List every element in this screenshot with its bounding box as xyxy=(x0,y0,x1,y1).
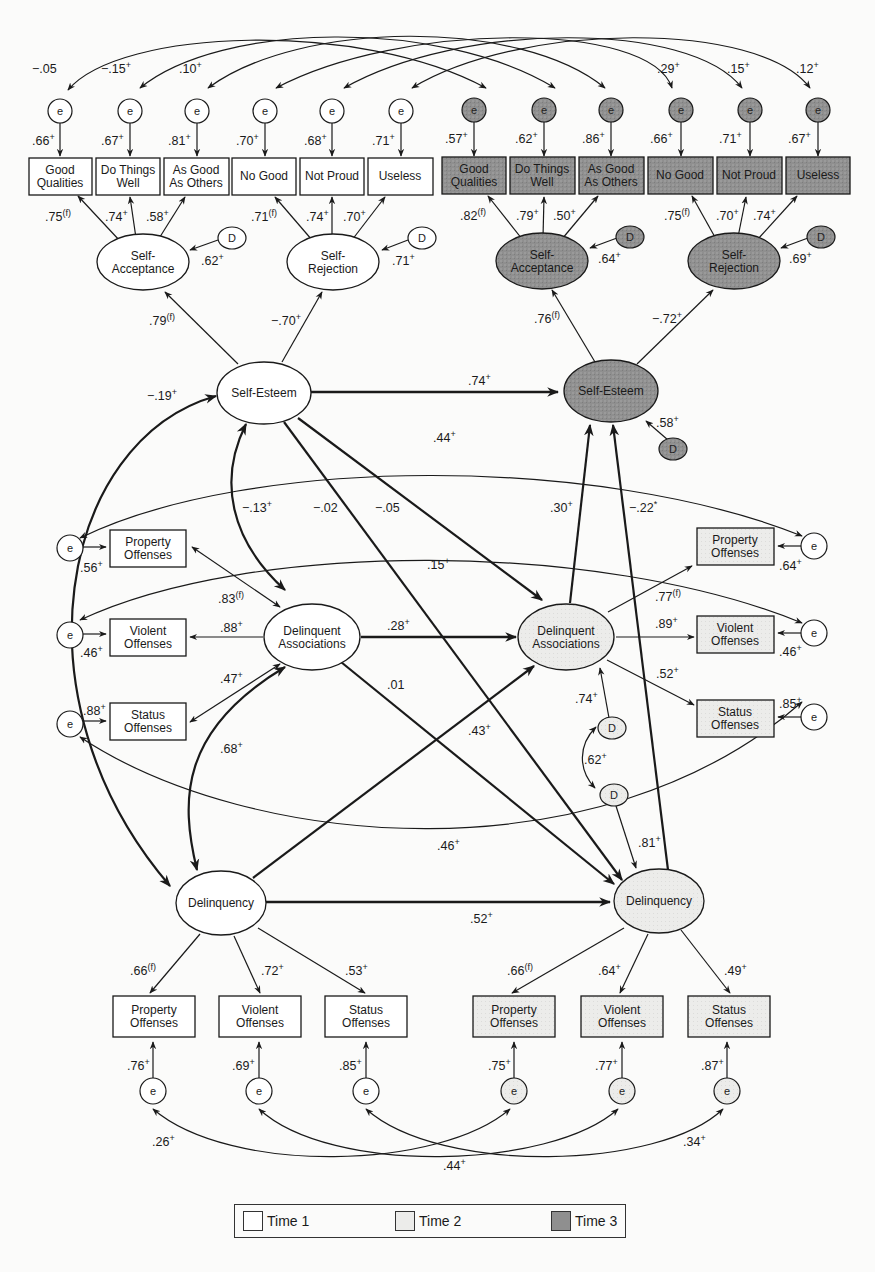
legend-swatch-time1 xyxy=(243,1211,263,1231)
coef-label: .88+ xyxy=(220,619,243,635)
label-property-t1: PropertyOffenses xyxy=(130,1003,178,1030)
error-label: e xyxy=(511,1085,517,1097)
coef-label: .58+ xyxy=(146,208,169,224)
node-label-line: Associations xyxy=(278,637,345,651)
coef-label: .43+ xyxy=(468,722,491,738)
coef-label: −.19+ xyxy=(147,387,177,403)
node-label-line: Offenses xyxy=(490,1016,538,1030)
node-label-line: Not Proud xyxy=(722,168,776,182)
legend-item-time2: Time 2 xyxy=(395,1211,461,1231)
label-delinquency-t2: Delinquency xyxy=(626,894,692,908)
coef-label: .52+ xyxy=(656,665,679,681)
coef-label: .62+ xyxy=(515,130,538,146)
disturbance-label: D xyxy=(418,232,426,244)
node-label-line: Not Proud xyxy=(305,169,359,183)
disturbance-label: D xyxy=(228,232,236,244)
error-label: e xyxy=(678,104,684,116)
coef-label: −.22* xyxy=(629,499,658,515)
coef-label: .74+ xyxy=(306,208,329,224)
node-label-line: Offenses xyxy=(342,1016,390,1030)
disturbance-label: D xyxy=(626,231,634,243)
legend-label: Time 3 xyxy=(575,1213,617,1229)
label-delinquency-t1: Delinquency xyxy=(188,896,254,910)
node-label-line: Good xyxy=(45,163,74,177)
node-label-line: Well xyxy=(116,176,139,190)
label-self-esteem-t1: Self-Esteem xyxy=(231,386,296,400)
coef-label: .66(f) xyxy=(130,962,156,978)
legend-swatch-time2 xyxy=(395,1211,415,1231)
error-label: e xyxy=(815,104,821,116)
node-label-line: As Good xyxy=(588,162,635,176)
coef-label: .88+ xyxy=(83,702,106,718)
label-da-t1: DelinquentAssociations xyxy=(278,624,345,651)
node-label-line: Self- xyxy=(131,249,156,263)
legend-item-time3: Time 3 xyxy=(551,1211,617,1231)
node-label-line: Status xyxy=(718,705,752,719)
legend-item-time1: Time 1 xyxy=(243,1211,309,1231)
coef-label: .71(f) xyxy=(251,208,277,224)
coef-label: .70+ xyxy=(716,207,739,223)
node-label-line: No Good xyxy=(240,169,288,183)
coef-label: .57+ xyxy=(445,130,468,146)
error-label: e xyxy=(747,104,753,116)
coef-label: −.05 xyxy=(375,501,400,515)
coef-label: .15+ xyxy=(727,60,750,76)
coef-label: .74+ xyxy=(105,208,128,224)
label-not-proud-t3: Not Proud xyxy=(722,168,776,182)
coef-label: .81+ xyxy=(168,132,191,148)
node-label-line: Offenses xyxy=(598,1016,646,1030)
node-label-line: Useless xyxy=(379,169,422,183)
node-label-line: Associations xyxy=(532,637,599,651)
error-label: e xyxy=(619,1085,625,1097)
label-useless-t3: Useless xyxy=(797,168,840,182)
t1-item-boxes xyxy=(29,158,433,195)
legend: Time 1 Time 2 Time 3 xyxy=(234,1204,626,1238)
node-label-line: As Good xyxy=(173,163,220,177)
label-violent-t2: ViolentOffenses xyxy=(598,1003,646,1030)
coef-label: −.05 xyxy=(32,62,57,76)
node-label-line: Do Things xyxy=(515,162,569,176)
node-label-line: Violent xyxy=(130,624,167,638)
node-label-line: Rejection xyxy=(308,262,358,276)
coef-label: .47+ xyxy=(220,670,243,686)
coef-label: .76+ xyxy=(127,1057,150,1073)
coef-label: .66(f) xyxy=(507,962,533,978)
node-label-line: Well xyxy=(530,175,553,189)
label-useless-t1: Useless xyxy=(379,169,422,183)
coef-label: .71+ xyxy=(392,252,415,268)
error-label: e xyxy=(608,104,614,116)
coef-label: .72+ xyxy=(261,962,284,978)
node-label-line: Good xyxy=(459,162,488,176)
label-property-t2: PropertyOffenses xyxy=(490,1003,538,1030)
node-label-line: Offenses xyxy=(705,1016,753,1030)
label-no-good-t3: No Good xyxy=(656,168,704,182)
label-property-da-t1: PropertyOffenses xyxy=(124,535,172,562)
coef-label: .71+ xyxy=(719,130,742,146)
error-label: e xyxy=(262,105,268,117)
error-label: e xyxy=(811,711,817,723)
coef-label: .68+ xyxy=(304,132,327,148)
error-label: e xyxy=(256,1085,262,1097)
coef-label: .89+ xyxy=(655,615,678,631)
coef-label: .12+ xyxy=(796,60,819,76)
coef-label: .46+ xyxy=(437,837,460,853)
coef-label: .77(f) xyxy=(655,588,681,604)
legend-label: Time 1 xyxy=(267,1213,309,1229)
coef-label: .67+ xyxy=(788,130,811,146)
coef-label: .79+ xyxy=(516,207,539,223)
coef-label: .82(f) xyxy=(460,207,486,223)
coef-label: .29+ xyxy=(657,60,680,76)
node-label-line: Delinquency xyxy=(188,896,254,910)
coef-label: .74+ xyxy=(468,372,491,388)
node-label-line: Offenses xyxy=(236,1016,284,1030)
node-label-line: Offenses xyxy=(124,721,172,735)
error-label: e xyxy=(471,104,477,116)
node-label-line: Offenses xyxy=(130,1016,178,1030)
node-label-line: Violent xyxy=(604,1003,641,1017)
coef-label: .62+ xyxy=(584,751,607,767)
coef-label: .46+ xyxy=(779,643,802,659)
node-label-line: Status xyxy=(349,1003,383,1017)
error-label: e xyxy=(67,718,73,730)
coef-label: .52+ xyxy=(470,910,493,926)
coef-label: .74+ xyxy=(753,207,776,223)
